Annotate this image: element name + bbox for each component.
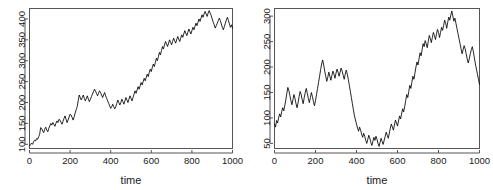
y-tick-label: 250 (16, 74, 27, 90)
series-line-left (30, 11, 233, 146)
y-tick-label: 400 (16, 11, 27, 27)
y-tick-label: 200 (261, 59, 272, 75)
y-tick-label: 250 (261, 34, 272, 50)
x-axis-right: 02004006008001000 (272, 150, 490, 166)
x-tick-label: 1000 (222, 155, 243, 166)
x-tick-label: 1000 (469, 155, 490, 166)
x-tick-label: 200 (62, 155, 78, 166)
y-tick-label: 50 (261, 138, 272, 149)
figure-container: 100150200250300350400 02004006008001000 … (0, 0, 493, 190)
y-tick-label: 100 (261, 110, 272, 126)
x-tick-label: 0 (27, 155, 32, 166)
x-axis-title-left: time (121, 174, 142, 186)
y-tick-label: 300 (16, 53, 27, 69)
series-line-right (275, 11, 480, 146)
plot-area-left (30, 9, 233, 149)
chart-panel-right: 50100150200250300 02004006008001000 time (246, 0, 492, 190)
y-tick-label: 150 (16, 115, 27, 131)
x-tick-label: 200 (308, 155, 324, 166)
y-axis-right: 50100150200250300 (261, 8, 273, 148)
x-tick-label: 600 (390, 155, 406, 166)
x-tick-label: 400 (103, 155, 119, 166)
x-tick-label: 400 (349, 155, 365, 166)
x-tick-label: 800 (431, 155, 447, 166)
chart-svg-right: 50100150200250300 02004006008001000 time (246, 0, 492, 190)
x-axis-title-right: time (367, 174, 388, 186)
y-tick-label: 300 (261, 8, 272, 24)
x-tick-label: 800 (184, 155, 200, 166)
x-tick-label: 0 (272, 155, 277, 166)
y-tick-label: 150 (261, 85, 272, 101)
x-axis-left: 02004006008001000 (27, 150, 243, 166)
y-tick-label: 100 (16, 136, 27, 152)
x-tick-label: 600 (143, 155, 159, 166)
y-axis-left: 100150200250300350400 (16, 11, 28, 152)
plot-box-border-left (30, 9, 233, 149)
plot-area-right (275, 9, 480, 149)
y-tick-label: 200 (16, 95, 27, 111)
y-tick-label: 350 (16, 32, 27, 48)
plot-box-border-right (275, 9, 480, 149)
chart-panel-left: 100150200250300350400 02004006008001000 … (0, 0, 246, 190)
chart-svg-left: 100150200250300350400 02004006008001000 … (0, 0, 246, 190)
